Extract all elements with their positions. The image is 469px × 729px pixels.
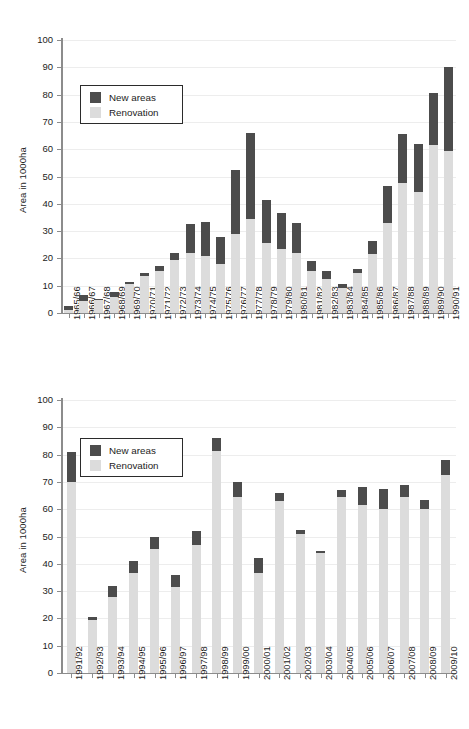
legend: New areasRenovation (80, 438, 183, 477)
y-tick-label-wrap: 70 (27, 117, 53, 127)
bar-segment-new-areas (307, 261, 316, 271)
y-tick-label: 30 (27, 586, 53, 596)
x-tick-mark (342, 674, 343, 678)
bar-segment-new-areas (170, 253, 179, 260)
bar-segment-new-areas (125, 282, 134, 285)
x-tick-mark (321, 674, 322, 678)
legend-item: New areas (90, 92, 156, 103)
bar-segment-new-areas (254, 558, 263, 573)
gridline (61, 40, 456, 41)
x-tick-mark (362, 674, 363, 678)
legend: New areasRenovation (80, 85, 183, 124)
x-tick-label: 1998/99 (221, 646, 230, 680)
x-tick-mark (99, 314, 100, 318)
y-tick-label-wrap: 90 (27, 422, 53, 432)
x-tick-mark (266, 314, 267, 318)
y-tick-label: 60 (27, 144, 53, 154)
x-tick-mark (113, 674, 114, 678)
legend-label-renovation: Renovation (109, 460, 159, 471)
x-tick-mark (418, 314, 419, 318)
x-tick-mark (217, 674, 218, 678)
y-tick-label-wrap: 80 (27, 90, 53, 100)
x-tick-mark (129, 314, 130, 318)
y-tick-label: 50 (27, 172, 53, 182)
bar-segment-renovation (212, 451, 221, 673)
y-tick-label: 90 (27, 422, 53, 432)
x-tick-mark (175, 674, 176, 678)
x-tick-mark (155, 674, 156, 678)
x-tick-label: 2000/01 (263, 646, 272, 680)
y-tick-label-wrap: 30 (27, 586, 53, 596)
bar-segment-new-areas (277, 213, 286, 248)
y-tick-label-wrap: 10 (27, 281, 53, 291)
bar-segment-new-areas (441, 460, 450, 475)
x-tick-label: 2008/09 (429, 646, 438, 680)
x-tick-mark (238, 674, 239, 678)
bar-segment-renovation (67, 482, 76, 673)
legend-label-renovation: Renovation (109, 107, 159, 118)
bar-segment-new-areas (400, 485, 409, 497)
x-tick-label: 2006/07 (387, 646, 396, 680)
bar-segment-new-areas (368, 241, 377, 255)
legend-swatch-renovation (90, 107, 101, 118)
x-tick-mark (403, 314, 404, 318)
y-tick-label-wrap: 70 (27, 477, 53, 487)
bar-segment-new-areas (379, 489, 388, 509)
bar-segment-new-areas (398, 134, 407, 183)
y-tick-label: 60 (27, 504, 53, 514)
bar-segment-new-areas (129, 561, 138, 573)
bar-segment-new-areas (246, 133, 255, 219)
x-tick-label: 2003/04 (325, 646, 334, 680)
bar-segment-new-areas (186, 224, 195, 253)
legend-item: Renovation (90, 460, 159, 471)
x-tick-label: 1991/92 (75, 646, 84, 680)
y-tick-label: 20 (27, 253, 53, 263)
y-tick-label: 100 (27, 395, 53, 405)
y-tick-label-wrap: 50 (27, 532, 53, 542)
y-axis-line (61, 38, 63, 313)
x-tick-mark (279, 674, 280, 678)
x-tick-mark (160, 314, 161, 318)
x-tick-mark (327, 314, 328, 318)
x-tick-mark (357, 314, 358, 318)
y-tick-label: 10 (27, 281, 53, 291)
x-tick-mark (448, 314, 449, 318)
bar-segment-new-areas (444, 67, 453, 150)
bar-segment-new-areas (67, 452, 76, 482)
x-tick-mark (342, 314, 343, 318)
x-tick-label: 1995/96 (159, 646, 168, 680)
legend-swatch-new-areas (90, 445, 101, 456)
x-tick-mark (84, 314, 85, 318)
x-tick-mark (383, 674, 384, 678)
gridline (61, 67, 456, 68)
x-tick-label: 1999/00 (242, 646, 251, 680)
bar-segment-new-areas (192, 531, 201, 545)
y-tick-label: 40 (27, 559, 53, 569)
y-tick-label: 30 (27, 226, 53, 236)
y-tick-label-wrap: 60 (27, 144, 53, 154)
bar-segment-new-areas (414, 144, 423, 192)
bar-segment-new-areas (216, 237, 225, 264)
bar (444, 67, 453, 313)
gridline (61, 400, 456, 401)
y-tick-label: 80 (27, 90, 53, 100)
y-tick-label: 100 (27, 35, 53, 45)
x-tick-label: 1997/98 (200, 646, 209, 680)
y-tick-label: 70 (27, 117, 53, 127)
legend-label-new-areas: New areas (109, 92, 156, 103)
x-tick-mark (300, 674, 301, 678)
bar-segment-new-areas (316, 551, 325, 553)
y-tick-label-wrap: 80 (27, 450, 53, 460)
gridline (61, 231, 456, 232)
y-tick-label-wrap: 40 (27, 559, 53, 569)
x-tick-mark (281, 314, 282, 318)
x-tick-mark (388, 314, 389, 318)
bar (441, 460, 450, 673)
x-tick-label: 2005/06 (366, 646, 375, 680)
x-tick-mark (71, 674, 72, 678)
x-tick-mark (404, 674, 405, 678)
x-tick-label: 1992/93 (96, 646, 105, 680)
x-tick-mark (259, 674, 260, 678)
x-tick-mark (236, 314, 237, 318)
x-tick-mark (69, 314, 70, 318)
